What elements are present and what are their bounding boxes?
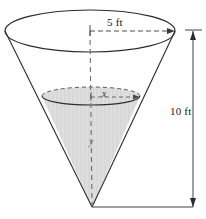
height-top-arrowhead: [190, 31, 196, 40]
total-height-label: 10 ft: [170, 105, 191, 117]
liquid-height-label: y: [89, 136, 93, 147]
top-radius-dimension: [90, 25, 175, 36]
liquid-radius-label: x: [102, 88, 106, 99]
top-radius-label: 5 ft: [107, 16, 123, 28]
cone-volume-diagram: 5 ft 10 ft x y: [0, 0, 206, 219]
height-bottom-arrowhead: [190, 198, 196, 207]
